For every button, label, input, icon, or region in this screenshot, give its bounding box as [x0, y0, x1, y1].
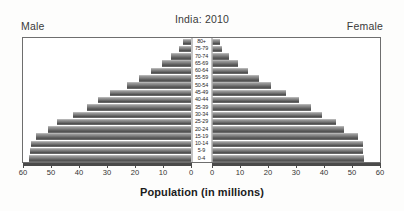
- plot-area: 80+75-7970-7465-6960-6455-5950-5445-4940…: [22, 37, 381, 163]
- age-group-label-20-24: 20-24: [192, 126, 211, 133]
- bar-female-0-4: [212, 155, 364, 161]
- age-group-label-5-9: 5-9: [192, 147, 211, 154]
- axis-tick: [79, 163, 80, 168]
- population-pyramid-figure: India: 2010 Male Female 80+75-7970-7465-…: [0, 0, 404, 211]
- bar-male-80+: [183, 39, 191, 45]
- x-axis-caption: Population (in millions): [0, 186, 404, 198]
- age-group-label-70-74: 70-74: [192, 53, 211, 60]
- plot-inner: 80+75-7970-7465-6960-6455-5950-5445-4940…: [23, 38, 380, 162]
- age-group-label-75-79: 75-79: [192, 45, 211, 52]
- age-group-label-15-19: 15-19: [192, 133, 211, 140]
- bar-male-25-29: [57, 119, 191, 125]
- axis-tick-label-30: 30: [103, 168, 111, 177]
- axis-tick: [380, 163, 381, 168]
- female-side-label: Female: [347, 20, 383, 32]
- axis-tick-label-60: 60: [19, 168, 27, 177]
- age-group-label-30-34: 30-34: [192, 111, 211, 118]
- bar-female-50-54: [212, 82, 271, 88]
- axis-tick: [268, 163, 269, 168]
- age-group-label-0-4: 0-4: [192, 155, 211, 162]
- axis-tick: [23, 163, 24, 168]
- axis-tick: [191, 163, 192, 168]
- bar-male-65-69: [162, 60, 191, 66]
- age-group-axis: 80+75-7970-7465-6960-6455-5950-5445-4940…: [191, 38, 212, 162]
- axis-tick-label-50: 50: [348, 168, 356, 177]
- x-axis-male: 6050403020100: [23, 163, 191, 181]
- age-group-label-40-44: 40-44: [192, 96, 211, 103]
- axis-tick-label-0: 0: [210, 168, 214, 177]
- bar-female-10-14: [212, 141, 363, 147]
- chart-title: India: 2010: [0, 13, 404, 25]
- age-group-label-60-64: 60-64: [192, 67, 211, 74]
- axis-tick: [296, 163, 297, 168]
- age-group-label-10-14: 10-14: [192, 140, 211, 147]
- bar-male-50-54: [127, 82, 191, 88]
- age-group-label-35-39: 35-39: [192, 104, 211, 111]
- x-axis-female: 0102030405060: [212, 163, 380, 181]
- bar-female-60-64: [212, 68, 248, 74]
- bar-female-80+: [212, 39, 220, 45]
- bar-male-45-49: [110, 90, 191, 96]
- bar-male-30-34: [73, 112, 191, 118]
- bar-male-60-64: [151, 68, 191, 74]
- bar-female-65-69: [212, 60, 238, 66]
- bar-male-20-24: [48, 126, 191, 132]
- age-group-label-65-69: 65-69: [192, 60, 211, 67]
- axis-tick-label-40: 40: [320, 168, 328, 177]
- bar-male-75-79: [179, 46, 191, 52]
- age-group-label-50-54: 50-54: [192, 82, 211, 89]
- axis-tick: [163, 163, 164, 168]
- axis-tick: [107, 163, 108, 168]
- bar-female-55-59: [212, 75, 259, 81]
- bar-male-5-9: [30, 148, 191, 154]
- axis-tick-label-20: 20: [131, 168, 139, 177]
- bar-female-45-49: [212, 90, 286, 96]
- age-group-label-25-29: 25-29: [192, 118, 211, 125]
- male-side-label: Male: [21, 20, 45, 32]
- bar-male-70-74: [171, 53, 191, 59]
- axis-tick-label-40: 40: [75, 168, 83, 177]
- axis-tick-label-60: 60: [376, 168, 384, 177]
- axis-tick-label-10: 10: [159, 168, 167, 177]
- bar-male-35-39: [87, 104, 191, 110]
- age-group-label-55-59: 55-59: [192, 74, 211, 81]
- axis-tick: [212, 163, 213, 168]
- axis-tick-label-50: 50: [47, 168, 55, 177]
- age-group-label-80+: 80+: [192, 38, 211, 45]
- axis-tick: [352, 163, 353, 168]
- bar-male-15-19: [36, 133, 191, 139]
- bar-female-15-19: [212, 133, 358, 139]
- bar-female-20-24: [212, 126, 344, 132]
- bar-female-5-9: [212, 148, 363, 154]
- axis-tick: [51, 163, 52, 168]
- axis-tick: [324, 163, 325, 168]
- age-group-label-45-49: 45-49: [192, 89, 211, 96]
- bar-male-40-44: [98, 97, 191, 103]
- bar-male-55-59: [139, 75, 191, 81]
- bar-female-75-79: [212, 46, 222, 52]
- bar-female-30-34: [212, 112, 322, 118]
- axis-tick-label-20: 20: [264, 168, 272, 177]
- axis-tick-label-0: 0: [189, 168, 193, 177]
- bar-male-10-14: [31, 141, 191, 147]
- axis-tick-label-30: 30: [292, 168, 300, 177]
- bar-female-70-74: [212, 53, 229, 59]
- axis-tick: [240, 163, 241, 168]
- bar-female-40-44: [212, 97, 299, 103]
- axis-tick-label-10: 10: [236, 168, 244, 177]
- axis-tick: [135, 163, 136, 168]
- bar-male-0-4: [29, 155, 191, 161]
- bar-female-25-29: [212, 119, 336, 125]
- bar-female-35-39: [212, 104, 311, 110]
